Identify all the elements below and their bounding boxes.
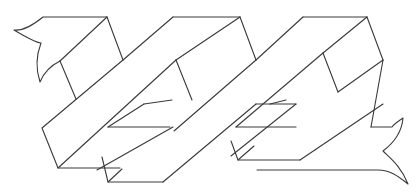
ribbon-svg bbox=[0, 0, 418, 194]
ribbon-illustration bbox=[0, 0, 418, 194]
left-tail bbox=[14, 17, 107, 82]
right-tail bbox=[257, 118, 408, 184]
band-3-top bbox=[256, 17, 383, 104]
band-1-front bbox=[42, 60, 176, 168]
band-2-front bbox=[97, 60, 256, 182]
